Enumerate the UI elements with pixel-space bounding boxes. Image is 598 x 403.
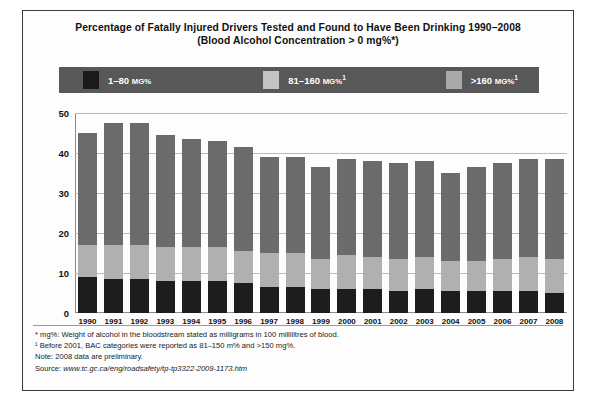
- bar-segment: [337, 289, 356, 313]
- y-axis-tick: 0: [64, 308, 69, 319]
- bar-segment: [545, 293, 564, 313]
- bar-segment: [104, 123, 123, 245]
- bar-segment: [104, 279, 123, 313]
- plot-area: 01020304050 1990199119921993199419951996…: [75, 113, 567, 313]
- y-axis-tick: 50: [58, 108, 69, 119]
- bar-segment: [441, 291, 460, 313]
- footnote-star: * mg%: Weight of alcohol in the bloodstr…: [35, 329, 555, 340]
- bar-segment: [182, 139, 201, 247]
- bar-segment: [545, 159, 564, 259]
- bar-segment: [104, 245, 123, 279]
- bar-segment: [389, 291, 408, 313]
- legend-label-over-160: >160 MG%1: [471, 74, 518, 86]
- bar-column[interactable]: 1998: [286, 113, 305, 313]
- bar-column[interactable]: 1993: [156, 113, 175, 313]
- bar-segment: [337, 159, 356, 255]
- legend-item-1-80: 1–80 MG%: [83, 67, 151, 93]
- bar-segment: [441, 173, 460, 261]
- bar-column[interactable]: 2001: [363, 113, 382, 313]
- bar-series: 1990199119921993199419951996199719981999…: [75, 113, 567, 313]
- bar-segment: [208, 247, 227, 281]
- bar-segment: [156, 247, 175, 281]
- bar-segment: [260, 157, 279, 253]
- bar-segment: [519, 159, 538, 257]
- bar-segment: [311, 167, 330, 259]
- source-url: www.tc.gc.ca/eng/roadsafety/tp-tp3322-20…: [63, 364, 247, 373]
- bar-segment: [493, 259, 512, 291]
- source-prefix: Source:: [35, 364, 63, 373]
- bar-segment: [441, 261, 460, 291]
- bar-column[interactable]: 1991: [104, 113, 123, 313]
- bar-segment: [182, 247, 201, 281]
- chart-notes: * mg%: Weight of alcohol in the bloodstr…: [35, 329, 555, 374]
- bar-column[interactable]: 1997: [260, 113, 279, 313]
- bar-segment: [519, 291, 538, 313]
- chart-title-line2: (Blood Alcohol Concentration > 0 mg%*): [23, 34, 573, 47]
- bar-column[interactable]: 2007: [519, 113, 538, 313]
- footnote-one: ¹ Before 2001, BAC categories were repor…: [35, 340, 555, 351]
- bar-segment: [286, 287, 305, 313]
- bar-segment: [545, 259, 564, 293]
- bar-segment: [234, 147, 253, 251]
- bar-segment: [415, 289, 434, 313]
- note-preliminary: Note: 2008 data are preliminary.: [35, 351, 555, 362]
- bar-segment: [286, 157, 305, 253]
- bar-segment: [389, 259, 408, 291]
- bar-segment: [78, 245, 97, 277]
- chart-title: Percentage of Fatally Injured Drivers Te…: [23, 11, 573, 47]
- bar-column[interactable]: 1992: [130, 113, 149, 313]
- y-axis-tick: 40: [58, 148, 69, 159]
- bar-segment: [130, 245, 149, 279]
- bar-segment: [260, 287, 279, 313]
- bar-column[interactable]: 1996: [234, 113, 253, 313]
- bar-segment: [234, 283, 253, 313]
- legend-swatch-dark-icon: [83, 71, 99, 89]
- bar-segment: [78, 277, 97, 313]
- source-line: Source: www.tc.gc.ca/eng/roadsafety/tp-t…: [35, 363, 555, 374]
- y-axis-tick: 10: [58, 268, 69, 279]
- bar-segment: [493, 291, 512, 313]
- bar-column[interactable]: 1999: [311, 113, 330, 313]
- bar-segment: [130, 279, 149, 313]
- bar-segment: [286, 253, 305, 287]
- bar-column[interactable]: 1990: [78, 113, 97, 313]
- bar-column[interactable]: 2000: [337, 113, 356, 313]
- legend-swatch-mid-icon: [263, 71, 279, 89]
- bar-column[interactable]: 1995: [208, 113, 227, 313]
- bar-column[interactable]: 2002: [389, 113, 408, 313]
- bar-column[interactable]: 2006: [493, 113, 512, 313]
- bar-segment: [260, 253, 279, 287]
- bar-segment: [208, 141, 227, 247]
- bar-segment: [363, 161, 382, 257]
- chart-card: Percentage of Fatally Injured Drivers Te…: [22, 10, 574, 391]
- bar-segment: [311, 259, 330, 289]
- legend-item-over-160: >160 MG%1: [446, 67, 518, 93]
- bar-segment: [363, 289, 382, 313]
- legend-swatch-light-icon: [446, 71, 462, 89]
- bar-segment: [78, 133, 97, 245]
- bar-column[interactable]: 2005: [467, 113, 486, 313]
- bar-segment: [389, 163, 408, 259]
- bar-segment: [337, 255, 356, 289]
- legend-label-81-160: 81–160 MG%1: [288, 74, 345, 86]
- bar-segment: [208, 281, 227, 313]
- bar-column[interactable]: 2008: [545, 113, 564, 313]
- bar-column[interactable]: 1994: [182, 113, 201, 313]
- bar-segment: [415, 257, 434, 289]
- notes-divider: [33, 325, 563, 326]
- chart-legend: 1–80 MG% 81–160 MG%1 >160 MG%1: [59, 67, 539, 93]
- y-axis-tick: 30: [58, 188, 69, 199]
- bar-segment: [156, 281, 175, 313]
- chart-title-line1: Percentage of Fatally Injured Drivers Te…: [23, 21, 573, 34]
- bar-segment: [130, 123, 149, 245]
- bar-segment: [234, 251, 253, 283]
- bar-segment: [311, 289, 330, 313]
- bar-segment: [467, 291, 486, 313]
- bar-column[interactable]: 2003: [415, 113, 434, 313]
- bar-segment: [156, 135, 175, 247]
- bar-segment: [363, 257, 382, 289]
- bar-segment: [493, 163, 512, 259]
- bar-segment: [182, 281, 201, 313]
- bar-segment: [467, 167, 486, 261]
- bar-column[interactable]: 2004: [441, 113, 460, 313]
